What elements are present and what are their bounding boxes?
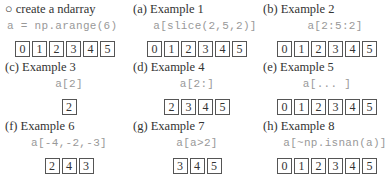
panel-code: a[2] bbox=[5, 78, 133, 91]
panel-5: (e) Example 5a[... ]012345 bbox=[263, 60, 389, 120]
panel-6: (f) Example 6a[-4,-2,-3]243 bbox=[5, 119, 133, 179]
array-element: 5 bbox=[215, 99, 230, 115]
array-boxes: 012345 bbox=[263, 99, 389, 115]
array-element: 3 bbox=[173, 158, 188, 174]
array-element: 4 bbox=[345, 99, 360, 115]
array-boxes: 345 bbox=[133, 158, 261, 174]
array-boxes: 012345 bbox=[133, 41, 261, 57]
array-boxes: 012345 bbox=[15, 41, 143, 57]
array-element: 3 bbox=[181, 99, 196, 115]
array-boxes: 243 bbox=[5, 158, 133, 174]
array-element: 3 bbox=[328, 41, 343, 57]
array-element: 5 bbox=[362, 99, 377, 115]
panel-3: (c) Example 3a[2]2 bbox=[5, 60, 133, 120]
array-element: 2 bbox=[311, 99, 326, 115]
array-element: 2 bbox=[62, 99, 77, 115]
panel-code: a[-4,-2,-3] bbox=[5, 137, 133, 150]
panel-label: (h) Example 8 bbox=[263, 119, 335, 133]
panel-7: (g) Example 7a[a>2]345 bbox=[133, 119, 261, 179]
array-element: 1 bbox=[164, 41, 179, 57]
panel-label: (e) Example 5 bbox=[263, 60, 334, 74]
array-element: 2 bbox=[45, 158, 60, 174]
array-element: 0 bbox=[147, 41, 162, 57]
array-element: 5 bbox=[100, 41, 115, 57]
panel-4: (d) Example 4a[2:]2345 bbox=[133, 60, 261, 120]
panel-label: (g) Example 7 bbox=[133, 119, 205, 133]
array-element: 3 bbox=[79, 158, 94, 174]
array-element: 2 bbox=[311, 158, 326, 174]
array-element: 0 bbox=[277, 41, 292, 57]
array-element: 1 bbox=[294, 158, 309, 174]
panel-code: a[a>2] bbox=[133, 137, 261, 150]
array-element: 3 bbox=[198, 41, 213, 57]
panel-code: a[2:5:2] bbox=[271, 20, 389, 33]
panel-label: (b) Example 2 bbox=[263, 2, 335, 16]
array-element: 0 bbox=[277, 99, 292, 115]
panel-1: (a) Example 1a[slice(2,5,2)]012345 bbox=[133, 2, 261, 62]
array-boxes: 012345 bbox=[263, 158, 389, 174]
array-element: 4 bbox=[190, 158, 205, 174]
panel-code: a[... ] bbox=[263, 78, 389, 91]
panel-2: (b) Example 2a[2:5:2]012345 bbox=[263, 2, 389, 62]
panel-8: (h) Example 8a[~np.isnan(a)]012345 bbox=[263, 119, 389, 179]
array-element: 1 bbox=[32, 41, 47, 57]
array-element: 0 bbox=[277, 158, 292, 174]
panel-label: (a) Example 1 bbox=[133, 2, 204, 16]
array-element: 5 bbox=[362, 41, 377, 57]
array-element: 1 bbox=[294, 41, 309, 57]
array-element: 4 bbox=[215, 41, 230, 57]
array-element: 2 bbox=[49, 41, 64, 57]
array-element: 3 bbox=[328, 158, 343, 174]
panel-label: (d) Example 4 bbox=[133, 60, 205, 74]
panel-code: a = np.arange(6) bbox=[7, 20, 135, 33]
array-element: 2 bbox=[181, 41, 196, 57]
panel-label: ○ create a ndarray bbox=[5, 2, 95, 16]
array-element: 4 bbox=[345, 41, 360, 57]
panel-code: a[~np.isnan(a)] bbox=[271, 137, 389, 150]
array-element: 2 bbox=[164, 99, 179, 115]
array-element: 2 bbox=[311, 41, 326, 57]
panel-0: ○ create a ndarraya = np.arange(6)012345 bbox=[5, 2, 133, 62]
array-element: 4 bbox=[198, 99, 213, 115]
array-boxes: 012345 bbox=[263, 41, 389, 57]
array-element: 4 bbox=[345, 158, 360, 174]
panel-label: (f) Example 6 bbox=[5, 119, 74, 133]
array-element: 4 bbox=[62, 158, 77, 174]
array-element: 5 bbox=[207, 158, 222, 174]
array-boxes: 2345 bbox=[133, 99, 261, 115]
array-element: 0 bbox=[15, 41, 30, 57]
panel-code: a[2:] bbox=[133, 78, 261, 91]
panel-label: (c) Example 3 bbox=[5, 60, 76, 74]
array-boxes: 2 bbox=[5, 99, 133, 115]
array-element: 5 bbox=[362, 158, 377, 174]
array-element: 3 bbox=[328, 99, 343, 115]
array-element: 1 bbox=[294, 99, 309, 115]
array-element: 4 bbox=[83, 41, 98, 57]
panel-code: a[slice(2,5,2)] bbox=[141, 20, 269, 33]
array-element: 3 bbox=[66, 41, 81, 57]
array-element: 5 bbox=[232, 41, 247, 57]
